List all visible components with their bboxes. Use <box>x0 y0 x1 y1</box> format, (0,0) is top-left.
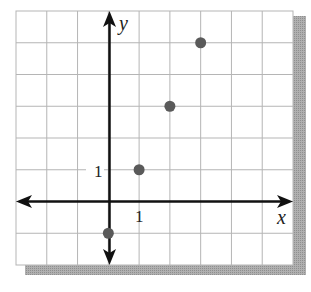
data-point <box>164 101 175 112</box>
x-tick-label: 1 <box>135 207 144 226</box>
x-axis-label: x <box>276 206 286 228</box>
data-point <box>195 37 206 48</box>
data-point <box>134 164 145 175</box>
y-tick-label: 1 <box>94 162 103 181</box>
coordinate-plane: y x 1 1 <box>0 0 311 292</box>
y-axis-label: y <box>117 12 128 35</box>
data-point <box>103 228 114 239</box>
